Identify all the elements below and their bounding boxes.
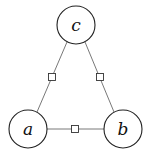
factor-node-b-c <box>97 74 104 81</box>
node-label-a: a <box>23 119 33 139</box>
node-label-c: c <box>71 15 81 35</box>
variable-node-a: a <box>9 110 47 148</box>
factor-graph-diagram: c a b <box>0 0 149 157</box>
factor-node-a-c <box>49 74 56 81</box>
variable-node-c: c <box>57 6 95 44</box>
variable-node-b: b <box>104 110 142 148</box>
factor-node-a-b <box>72 126 79 133</box>
node-label-b: b <box>118 119 129 139</box>
